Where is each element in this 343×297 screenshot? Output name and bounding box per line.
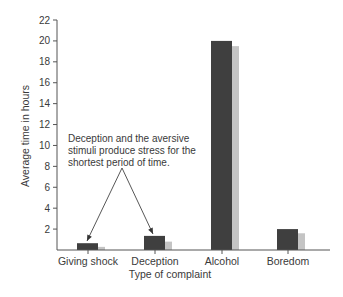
y-tick-label: 14: [39, 98, 51, 109]
x-tick-label: Deception: [131, 255, 178, 267]
y-tick-label: 16: [39, 77, 51, 88]
x-tick-label: Boredom: [267, 255, 310, 267]
bar-chart: 246810121416182022 Giving shockDeception…: [0, 0, 343, 297]
x-tick-label: Giving shock: [58, 255, 119, 267]
y-tick-label: 2: [44, 224, 50, 235]
x-tick-label: Alcohol: [205, 255, 239, 267]
x-axis: Giving shockDeceptionAlcoholBoredom: [57, 250, 330, 267]
y-tick-label: 10: [39, 140, 51, 151]
y-tick-label: 12: [39, 119, 51, 130]
annotation-arrow-line: [122, 168, 153, 234]
y-tick-label: 8: [44, 161, 50, 172]
bar-dark: [77, 243, 98, 250]
annotation-text: stimuli produce stress for the: [68, 145, 196, 156]
bar-dark: [144, 236, 165, 250]
y-tick-label: 20: [39, 35, 51, 46]
y-tick-label: 18: [39, 56, 51, 67]
annotation-text: shortest period of time.: [68, 157, 170, 168]
y-axis: 246810121416182022: [39, 15, 57, 251]
annotation-text: Deception and the aversive: [68, 133, 190, 144]
y-tick-label: 4: [44, 203, 50, 214]
y-axis-title: Average time in hours: [19, 85, 31, 187]
x-axis-title: Type of complaint: [129, 268, 211, 280]
y-tick-label: 6: [44, 182, 50, 193]
bar-dark: [211, 41, 232, 250]
bar-dark: [277, 229, 298, 250]
annotation-arrow-line: [87, 168, 122, 241]
y-tick-label: 22: [39, 15, 51, 26]
annotation: Deception and the aversivestimuli produc…: [68, 133, 196, 241]
